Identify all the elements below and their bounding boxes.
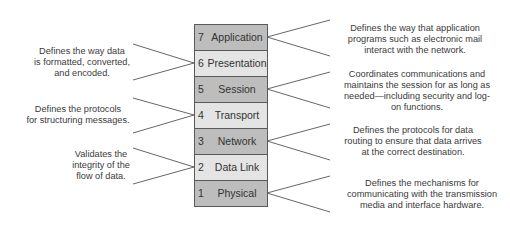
layer-physical: 1 Physical xyxy=(195,181,267,206)
layer-name: Transport xyxy=(207,103,267,128)
callout-line-network-bottom xyxy=(267,141,330,160)
description-line: Validates the xyxy=(66,149,136,160)
callout-line-datalink-top xyxy=(133,148,194,167)
layer-presentation: 6 Presentation xyxy=(195,51,267,77)
callout-line-presentation-bottom xyxy=(133,63,194,80)
callout-line-physical-top xyxy=(267,176,330,193)
description-line: integrity of the xyxy=(66,160,136,171)
description-line: for structuring messages. xyxy=(22,115,134,126)
layer-application: 7 Application xyxy=(195,25,267,51)
layer-name: Data Link xyxy=(207,155,267,180)
callout-line-application-top xyxy=(267,20,330,37)
layer-number: 4 xyxy=(198,103,204,128)
callout-line-datalink-bottom xyxy=(133,167,194,184)
description-presentation: Defines the way data is formatted, conve… xyxy=(30,46,134,79)
description-line: flow of data. xyxy=(66,171,136,182)
description-line: media and interface hardware. xyxy=(334,200,510,211)
description-session: Coordinates communications and maintains… xyxy=(332,69,502,113)
description-data-link: Validates the integrity of the flow of d… xyxy=(66,149,136,182)
callout-line-session-top xyxy=(267,72,330,89)
callout-line-transport-bottom xyxy=(133,115,194,133)
description-line: at the correct destination. xyxy=(330,147,496,158)
layer-number: 2 xyxy=(198,155,204,180)
description-line: needed—including security and log- xyxy=(332,91,502,102)
description-line: Coordinates communications and xyxy=(332,69,502,80)
description-network: Defines the protocols for data routing t… xyxy=(330,125,496,158)
layer-name: Session xyxy=(207,77,267,102)
callout-line-physical-bottom xyxy=(267,193,330,212)
callout-line-network-top xyxy=(267,124,330,141)
description-transport: Defines the protocols for structuring me… xyxy=(22,104,134,126)
layer-number: 1 xyxy=(198,181,204,206)
layer-name: Network xyxy=(207,129,267,154)
description-line: on functions. xyxy=(332,102,502,113)
description-physical: Defines the mechanisms for communicating… xyxy=(334,178,510,211)
description-line: Defines the way that application xyxy=(332,23,498,34)
description-line: Defines the protocols for data xyxy=(330,125,496,136)
description-line: maintains the session for as long as xyxy=(332,80,502,91)
callout-line-presentation-top xyxy=(133,44,194,63)
description-application: Defines the way that application program… xyxy=(332,23,498,56)
osi-layer-stack: 7 Application 6 Presentation 5 Session 4… xyxy=(194,24,268,207)
layer-number: 3 xyxy=(198,129,204,154)
layer-transport: 4 Transport xyxy=(195,103,267,129)
layer-number: 6 xyxy=(198,51,204,76)
description-line: and encoded. xyxy=(30,68,134,79)
description-line: is formatted, converted, xyxy=(30,57,134,68)
layer-number: 7 xyxy=(198,25,204,50)
description-line: Defines the protocols xyxy=(22,104,134,115)
layer-session: 5 Session xyxy=(195,77,267,103)
description-line: Defines the way data xyxy=(30,46,134,57)
layer-number: 5 xyxy=(198,77,204,102)
description-line: Defines the mechanisms for xyxy=(334,178,510,189)
layer-name: Physical xyxy=(207,181,267,206)
layer-network: 3 Network xyxy=(195,129,267,155)
layer-data-link: 2 Data Link xyxy=(195,155,267,181)
layer-name: Presentation xyxy=(207,51,267,76)
callout-line-transport-top xyxy=(133,98,194,115)
description-line: programs such as electronic mail xyxy=(332,34,498,45)
description-line: routing to ensure that data arrives xyxy=(330,136,496,147)
description-line: communicating with the transmission xyxy=(334,189,510,200)
layer-name: Application xyxy=(207,25,267,50)
callout-line-application-bottom xyxy=(267,37,330,56)
callout-line-session-bottom xyxy=(267,89,330,108)
description-line: interact with the network. xyxy=(332,45,498,56)
